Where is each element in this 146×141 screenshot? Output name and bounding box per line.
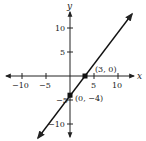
- x-tick-label: −5: [39, 81, 51, 90]
- x-tick-label: 5: [91, 81, 96, 90]
- point-label: (3, 0): [95, 65, 117, 74]
- coordinate-plane: x y −10 −5 5 10 10 5 −5 −10 (3, 0) (0, −…: [0, 0, 146, 141]
- point-label: (0, −4): [75, 94, 103, 103]
- x-tick-label: 10: [112, 81, 122, 90]
- x-axis-label: x: [137, 71, 142, 81]
- point-y-intercept: [68, 93, 73, 98]
- x-tick-label: −10: [12, 81, 29, 90]
- y-tick-label: 10: [55, 24, 65, 33]
- point-x-intercept: [83, 74, 88, 79]
- y-axis-label: y: [66, 1, 73, 11]
- y-tick-label: 5: [60, 48, 65, 57]
